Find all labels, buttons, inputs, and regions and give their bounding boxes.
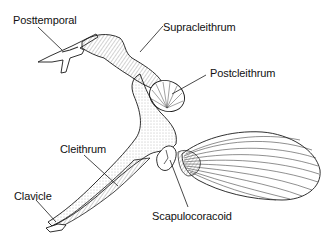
clavicle-bone — [46, 224, 66, 232]
pectoral-fin — [178, 132, 320, 200]
supracleithrum-bone — [82, 35, 164, 91]
label-scapulocoracoid: Scapulocoracoid — [152, 210, 232, 222]
label-posttemporal: Posttemporal — [13, 14, 77, 26]
label-cleithrum: Cleithrum — [60, 143, 106, 155]
label-clavicle: Clavicle — [14, 190, 52, 202]
label-postcleithrum: Postcleithrum — [210, 67, 275, 79]
pectoral-girdle-illustration — [0, 0, 333, 243]
label-supracleithrum: Supracleithrum — [163, 21, 236, 33]
